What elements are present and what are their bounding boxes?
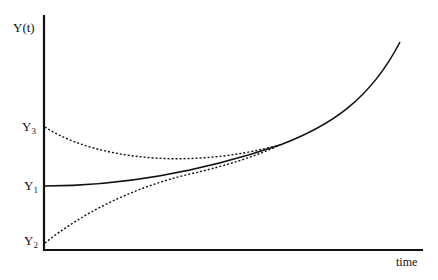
tick-label-y3: Y3 (22, 119, 36, 136)
svg-text:Y3: Y3 (22, 119, 36, 136)
tick-label-y1: Y1 (24, 178, 38, 195)
svg-text:Y1: Y1 (24, 178, 38, 195)
diagram: Y(t) time Y3 Y1 Y2 (0, 0, 438, 280)
solid-curve-from-y1 (44, 42, 400, 186)
svg-text:Y2: Y2 (24, 233, 38, 250)
x-axis-label: time (396, 255, 417, 269)
y-axis-label: Y(t) (13, 20, 35, 35)
dotted-curve-from-y3 (45, 127, 280, 159)
tick-label-y2: Y2 (24, 233, 38, 250)
dotted-curve-from-y2 (45, 146, 278, 243)
